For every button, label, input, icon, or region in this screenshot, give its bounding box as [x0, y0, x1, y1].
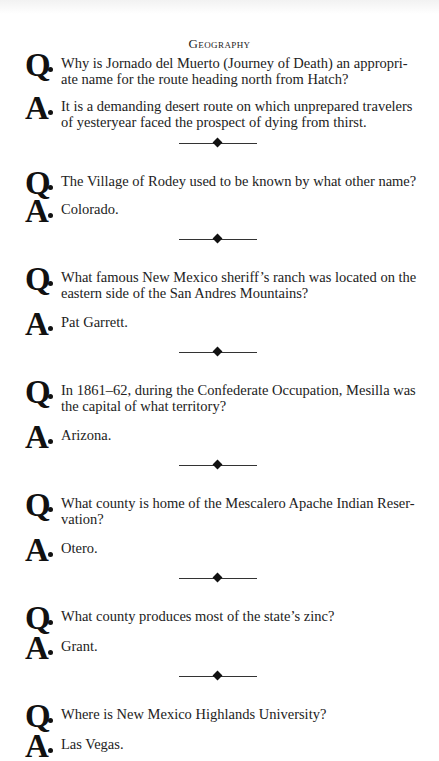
a-marker: A [25, 635, 61, 661]
a-marker: A [25, 95, 61, 121]
question-block: Q In 1861–62, during the Confederate Occ… [25, 379, 417, 414]
answer-text: Grant. [61, 635, 417, 654]
divider-ornament [179, 573, 257, 583]
previous-page-bleed [0, 0, 439, 14]
answer-block: A Grant. [25, 635, 417, 661]
diamond-icon [213, 347, 223, 357]
diamond-icon [213, 460, 223, 470]
bullet-icon [48, 326, 53, 331]
question-text: What county produces most of the state’s… [61, 605, 417, 624]
bullet-icon [48, 718, 53, 723]
question-block: Q What famous New Mexico sheriff’s ranch… [25, 266, 417, 301]
divider-ornament [179, 671, 257, 681]
q-marker: Q [25, 492, 61, 518]
q-marker: Q [25, 266, 61, 292]
answer-block: A It is a demanding desert route on whic… [25, 95, 417, 130]
answer-text: Colorado. [61, 198, 417, 217]
divider-ornament [179, 460, 257, 470]
a-marker: A [25, 733, 61, 759]
question-text: What famous New Mexico sheriff’s ranch w… [61, 266, 417, 301]
answer-block: A Colorado. [25, 198, 417, 224]
a-marker: A [25, 537, 61, 563]
section-heading: Geography [0, 36, 439, 52]
bullet-icon [48, 185, 53, 190]
answer-text: Otero. [61, 537, 417, 556]
question-text: Why is Jornado del Muerto (Journey of De… [61, 52, 417, 87]
divider-ornament [179, 138, 257, 148]
question-block: Q What county produces most of the state… [25, 605, 417, 631]
answer-block: A Pat Garrett. [25, 311, 417, 337]
answer-text: Pat Garrett. [61, 311, 417, 330]
qa-list: Q Why is Jornado del Muerto (Journey of … [25, 52, 417, 759]
a-marker: A [25, 311, 61, 337]
bullet-icon [48, 110, 53, 115]
bullet-icon [48, 281, 53, 286]
diamond-icon [213, 234, 223, 244]
divider-ornament [179, 347, 257, 357]
diamond-icon [213, 671, 223, 681]
bullet-icon [48, 67, 53, 72]
answer-text: It is a demanding desert route on which … [61, 95, 417, 130]
bullet-icon [48, 439, 53, 444]
q-marker: Q [25, 605, 61, 631]
bullet-icon [48, 552, 53, 557]
question-block: Q What county is home of the Mescalero A… [25, 492, 417, 527]
question-text: What county is home of the Mescalero Apa… [61, 492, 417, 527]
question-text: The Village of Rodey used to be known by… [61, 170, 417, 189]
divider-ornament [179, 234, 257, 244]
answer-block: A Arizona. [25, 424, 417, 450]
bullet-icon [48, 620, 53, 625]
question-text: In 1861–62, during the Confederate Occup… [61, 379, 417, 414]
question-block: Q Why is Jornado del Muerto (Journey of … [25, 52, 417, 87]
question-text: Where is New Mexico Highlands University… [61, 703, 417, 722]
question-block: Q Where is New Mexico Highlands Universi… [25, 703, 417, 729]
bullet-icon [48, 748, 53, 753]
answer-text: Arizona. [61, 424, 417, 443]
bullet-icon [48, 213, 53, 218]
answer-block: A Las Vegas. [25, 733, 417, 759]
diamond-icon [213, 573, 223, 583]
a-marker: A [25, 198, 61, 224]
bullet-icon [48, 507, 53, 512]
answer-text: Las Vegas. [61, 733, 417, 752]
question-block: Q The Village of Rodey used to be known … [25, 170, 417, 196]
a-marker: A [25, 424, 61, 450]
bullet-icon [48, 394, 53, 399]
q-marker: Q [25, 52, 61, 78]
q-marker: Q [25, 379, 61, 405]
q-marker: Q [25, 703, 61, 729]
answer-block: A Otero. [25, 537, 417, 563]
bullet-icon [48, 650, 53, 655]
diamond-icon [213, 138, 223, 148]
